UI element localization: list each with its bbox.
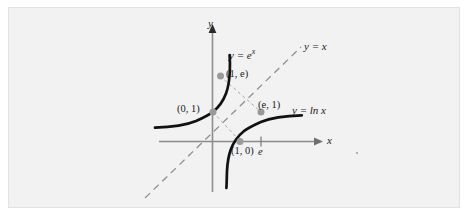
exponential-curve-label-exponent: x <box>252 47 256 56</box>
x-axis-label: x <box>327 135 332 146</box>
y-axis-label: y <box>208 18 213 29</box>
logarithmic-curve-label: y = ln x <box>292 105 326 116</box>
reflection-connectors <box>213 76 261 141</box>
identity-line-label: y = x <box>304 41 327 52</box>
x-tick-label-e: e <box>258 147 263 158</box>
graph-canvas <box>0 0 470 222</box>
point-label-1-e: (1, e) <box>226 69 248 80</box>
marker-point-0-1 <box>210 109 217 116</box>
exponential-curve-label-base: y = e <box>229 49 252 61</box>
marker-point-1-e <box>217 73 224 80</box>
point-label-1-0: (1, 0) <box>231 146 254 157</box>
logarithmic-curve-label-text: y = ln x <box>292 104 326 116</box>
point-label-0-1: (0, 1) <box>177 104 200 115</box>
y-axis <box>209 24 217 192</box>
exponential-curve <box>155 55 230 128</box>
marker-point-1-0 <box>237 138 244 145</box>
print-speck <box>356 152 358 154</box>
point-label-e-1: (e, 1) <box>258 100 280 111</box>
exponential-curve-label: y = ex <box>229 48 255 61</box>
figure-container: y x y = ex y = x y = ln x (0, 1) (1, e) … <box>0 0 470 222</box>
